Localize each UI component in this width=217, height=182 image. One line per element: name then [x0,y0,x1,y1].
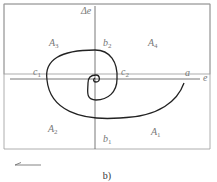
point-label-a: a [185,67,190,78]
point-label-b1: b1 [103,133,112,146]
region-label-a1: A1 [150,126,161,139]
phase-portrait-diagram: Δe e A3 A4 A2 A1 a b2 b1 c1 c2 b) [0,0,217,182]
vertical-axis-label: Δe [80,5,92,16]
point-label-c1: c1 [33,66,41,79]
region-label-a4: A4 [147,37,158,50]
point-label-b2: b2 [103,37,112,50]
direction-arrow-icon [15,163,41,166]
region-label-a3: A3 [48,37,59,50]
figure-caption: b) [103,170,111,182]
point-label-c2: c2 [121,66,129,79]
region-label-a2: A2 [47,123,58,136]
horizontal-axis-label: e [203,72,208,83]
spiral-trajectory [47,50,184,118]
